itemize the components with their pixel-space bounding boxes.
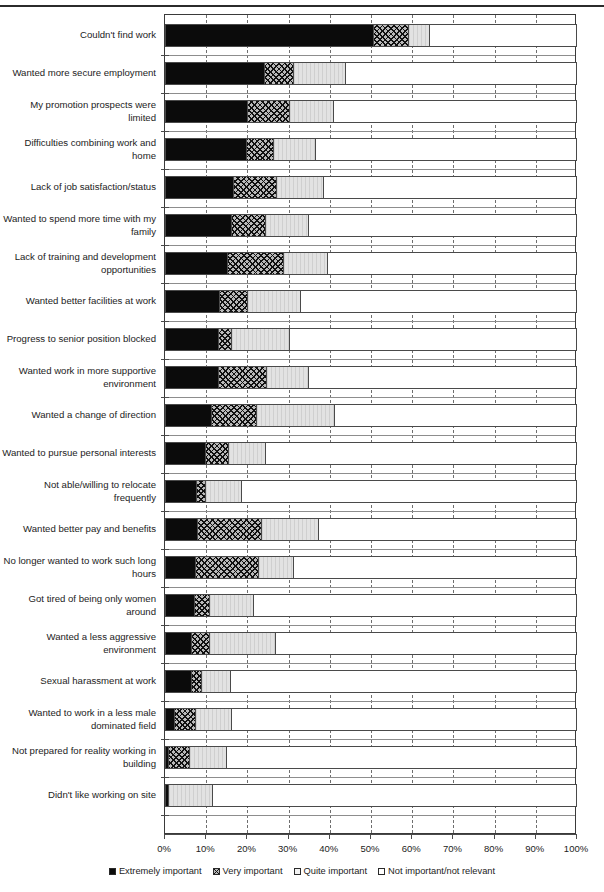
bar-row xyxy=(165,93,577,131)
x-axis-tick-label: 100% xyxy=(553,843,599,854)
legend-label: Extremely important xyxy=(119,866,202,876)
x-axis-tick xyxy=(535,834,536,839)
x-axis-tick xyxy=(164,834,165,839)
category-label: Wanted to pursue personal interests xyxy=(0,447,156,460)
legend-item[interactable]: Not important/not relevant xyxy=(378,866,495,876)
category-label: Didn't like working on site xyxy=(0,789,156,802)
category-label: Not able/willing to relocate frequently xyxy=(0,479,156,504)
bar-segment-2 xyxy=(197,518,261,541)
bar-segment-4 xyxy=(230,670,576,693)
bar-segment-1 xyxy=(165,138,246,161)
plot-area xyxy=(164,14,576,834)
category-label: Wanted better pay and benefits xyxy=(0,523,156,536)
bar-segment-3 xyxy=(209,632,276,655)
category-label: Not prepared for reality working in buil… xyxy=(0,745,156,770)
legend-item[interactable]: Quite important xyxy=(294,866,368,876)
row-separator xyxy=(165,815,575,816)
chart-legend: Extremely importantVery importantQuite i… xyxy=(0,866,604,876)
legend-swatch-icon xyxy=(109,868,116,875)
bar-segment-3 xyxy=(201,670,230,693)
bar-segment-2 xyxy=(233,176,276,199)
bar-segment-3 xyxy=(205,480,241,503)
stacked-bar xyxy=(165,708,577,731)
stacked-bar xyxy=(165,176,577,199)
bar-segment-4 xyxy=(293,556,577,579)
bar-segment-4 xyxy=(323,176,577,199)
category-label: My promotion prospects were limited xyxy=(0,99,156,124)
bar-segment-1 xyxy=(165,252,227,275)
stacked-bar xyxy=(165,670,577,693)
bar-segment-4 xyxy=(315,138,577,161)
bar-segment-4 xyxy=(253,594,577,617)
bar-segment-1 xyxy=(165,24,373,47)
x-axis-tick xyxy=(288,834,289,839)
legend-swatch-icon xyxy=(213,868,220,875)
category-label: Couldn't find work xyxy=(0,29,156,42)
category-label: Wanted to spend more time with my family xyxy=(0,213,156,238)
legend-item[interactable]: Extremely important xyxy=(109,866,202,876)
stacked-bar xyxy=(165,138,577,161)
bar-row xyxy=(165,511,577,549)
bar-segment-4 xyxy=(275,632,577,655)
bar-segment-4 xyxy=(334,404,577,427)
bar-row xyxy=(165,321,577,359)
bar-segment-2 xyxy=(219,290,247,313)
bar-segment-2 xyxy=(195,556,257,579)
bar-segment-1 xyxy=(165,290,219,313)
x-axis-tick xyxy=(246,834,247,839)
bar-segment-2 xyxy=(205,442,228,465)
x-axis-tick-label: 10% xyxy=(182,843,228,854)
stacked-bar xyxy=(165,518,577,541)
category-label: Lack of training and development opportu… xyxy=(0,251,156,276)
bar-segment-3 xyxy=(283,252,327,275)
bar-segment-2 xyxy=(373,24,408,47)
category-label: Got tired of being only women around xyxy=(0,593,156,618)
x-axis-tick-label: 70% xyxy=(429,843,475,854)
legend-label: Very important xyxy=(223,866,283,876)
bar-segment-3 xyxy=(408,24,429,47)
bar-row xyxy=(165,359,577,397)
bar-segment-2 xyxy=(191,632,209,655)
bar-segment-2 xyxy=(191,670,202,693)
bar-row xyxy=(165,397,577,435)
bar-segment-4 xyxy=(226,746,577,769)
x-axis-tick-label: 50% xyxy=(347,843,393,854)
bar-segment-4 xyxy=(289,328,577,351)
bar-segment-1 xyxy=(165,214,231,237)
bar-segment-4 xyxy=(265,442,577,465)
bar-segment-4 xyxy=(308,214,577,237)
x-axis-tick xyxy=(329,834,330,839)
bar-segment-2 xyxy=(196,480,205,503)
bar-segment-3 xyxy=(231,328,290,351)
bar-segment-3 xyxy=(273,138,315,161)
bar-segment-4 xyxy=(241,480,577,503)
legend-label: Quite important xyxy=(304,866,368,876)
category-label: No longer wanted to work such long hours xyxy=(0,555,156,580)
stacked-bar xyxy=(165,252,577,275)
stacked-bar xyxy=(165,594,577,617)
stacked-bar xyxy=(165,480,577,503)
stacked-bar xyxy=(165,442,577,465)
category-label: Difficulties combining work and home xyxy=(0,137,156,162)
category-label: Wanted better facilities at work xyxy=(0,295,156,308)
x-axis-tick-label: 80% xyxy=(471,843,517,854)
bar-segment-4 xyxy=(318,518,577,541)
y-axis-tick xyxy=(161,815,169,816)
bar-segment-3 xyxy=(256,404,334,427)
bar-segment-1 xyxy=(165,556,195,579)
stacked-bar xyxy=(165,404,577,427)
x-axis-tick xyxy=(494,834,495,839)
stacked-bar xyxy=(165,632,577,655)
legend-item[interactable]: Very important xyxy=(213,866,283,876)
x-axis-tick-label: 20% xyxy=(223,843,269,854)
stacked-bar xyxy=(165,100,577,123)
bar-row xyxy=(165,739,577,777)
category-label: Wanted more secure employment xyxy=(0,67,156,80)
x-axis-tick xyxy=(370,834,371,839)
bar-row xyxy=(165,587,577,625)
bar-segment-4 xyxy=(333,100,577,123)
bar-segment-4 xyxy=(429,24,577,47)
bar-row xyxy=(165,283,577,321)
bar-segment-2 xyxy=(246,138,273,161)
bar-segment-2 xyxy=(227,252,283,275)
